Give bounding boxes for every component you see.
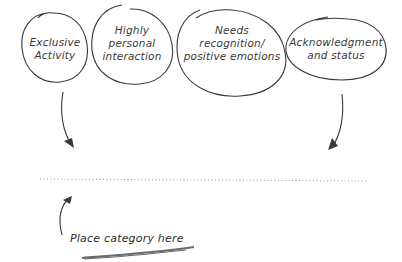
- bubble-text-line: and status: [284, 49, 388, 62]
- category-placeholder-line: [40, 179, 367, 181]
- bubble-acknowledgment: Acknowledgment and status: [284, 36, 388, 62]
- arrow-down-left-icon: [62, 92, 74, 148]
- bubble-text-line: positive emotions: [176, 50, 288, 63]
- bubble-text-line: Needs: [176, 24, 288, 37]
- arrow-up-icon: [60, 196, 72, 235]
- bubble-text-line: personal: [92, 37, 172, 50]
- bubble-text-line: recognition/: [176, 37, 288, 50]
- bubble-text-line: Acknowledgment: [284, 36, 388, 49]
- bubble-text-line: Highly: [92, 24, 172, 37]
- diagram-canvas: Exclusive Activity Highly personal inter…: [0, 0, 402, 262]
- arrow-down-right-icon: [328, 94, 343, 150]
- bubble-personal-interaction: Highly personal interaction: [92, 24, 172, 63]
- instruction-underline: [82, 247, 194, 259]
- bubble-text-line: Exclusive: [22, 36, 88, 49]
- bubble-text-line: interaction: [92, 50, 172, 63]
- instruction-text: Place category here: [70, 232, 184, 245]
- bubble-exclusive-activity: Exclusive Activity: [22, 36, 88, 62]
- bubble-text-line: Activity: [22, 49, 88, 62]
- bubble-recognition: Needs recognition/ positive emotions: [176, 24, 288, 63]
